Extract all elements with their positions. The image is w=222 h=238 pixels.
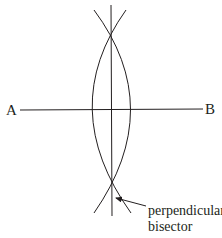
point-a-label: A: [6, 102, 17, 118]
annotation-line2: bisector: [148, 219, 193, 234]
right-arc: [94, 10, 131, 213]
point-b-label: B: [205, 101, 215, 117]
annotation-arrow: [116, 198, 146, 206]
perpendicular-bisector-diagram: A B perpendicular bisector: [0, 0, 222, 238]
annotation-line1: perpendicular: [148, 203, 222, 218]
